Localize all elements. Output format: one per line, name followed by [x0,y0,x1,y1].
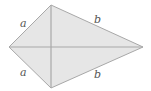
label-bottom-right: b [94,68,101,81]
label-bottom-left: a [20,66,27,79]
label-top-left: a [20,17,27,30]
label-top-right: b [94,13,101,26]
kite-diagram: a b a b [0,0,151,91]
